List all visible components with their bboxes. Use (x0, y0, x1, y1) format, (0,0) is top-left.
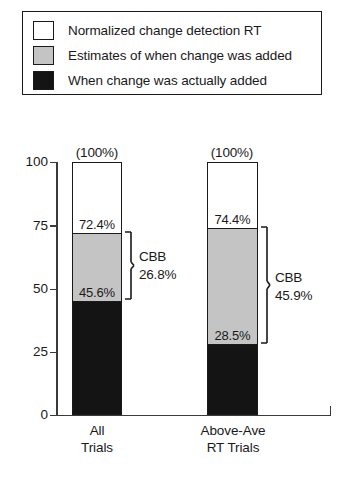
bar-label-black-top-above-ave: 28.5% (208, 329, 257, 342)
bar-segment-black (73, 301, 121, 414)
x-category-line1: All (47, 423, 147, 440)
stacked-bar-above-ave-rt-trials[interactable]: 74.4% 28.5% (207, 162, 258, 415)
cbb-value: 26.8% (139, 266, 176, 284)
bar-top-label-all-trials: (100%) (47, 146, 147, 160)
bar-chart: 100 75 50 25 0 (100%) 72.4% 45.6% CBB 26… (0, 0, 345, 480)
x-category-line2: Trials (47, 440, 147, 457)
y-tick-label-0: 0 (2, 408, 48, 422)
x-category-line2: RT Trials (182, 440, 284, 457)
y-tick-label-100: 100 (2, 155, 48, 169)
cbb-bracket-all-trials (124, 231, 135, 300)
bar-top-label-above-ave: (100%) (182, 146, 282, 160)
x-category-label-above-ave-rt-trials: Above-Ave RT Trials (182, 423, 284, 457)
y-tick-75 (50, 225, 57, 227)
x-axis-end-tick (330, 406, 332, 415)
cbb-label-all-trials: CBB 26.8% (139, 248, 176, 283)
x-category-label-all-trials: All Trials (47, 423, 147, 457)
cbb-label-above-ave: CBB 45.9% (275, 269, 312, 304)
cbb-value: 45.9% (275, 287, 312, 305)
cbb-title: CBB (275, 269, 312, 287)
bar-label-black-top-all-trials: 45.6% (73, 286, 121, 299)
x-category-line1: Above-Ave (182, 423, 284, 440)
bar-segment-gray (208, 228, 257, 344)
bar-segment-black (208, 344, 257, 414)
y-tick-0 (50, 415, 57, 417)
cbb-bracket-above-ave (260, 226, 271, 344)
y-tick-label-75: 75 (2, 219, 48, 233)
bar-label-gray-top-above-ave: 74.4% (208, 213, 257, 226)
y-tick-50 (50, 289, 57, 291)
y-tick-25 (50, 352, 57, 354)
y-tick-label-25: 25 (2, 345, 48, 359)
bar-label-gray-top-all-trials: 72.4% (73, 218, 121, 231)
stacked-bar-all-trials[interactable]: 72.4% 45.6% (72, 162, 122, 415)
cbb-title: CBB (139, 248, 176, 266)
y-tick-100 (50, 162, 57, 164)
y-tick-label-50: 50 (2, 282, 48, 296)
